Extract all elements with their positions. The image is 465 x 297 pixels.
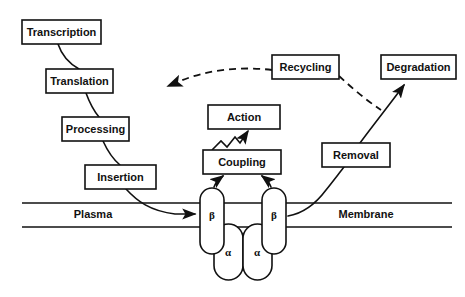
edge-coupling-to-action: [212, 131, 248, 150]
node-removal-label: Removal: [333, 149, 379, 161]
node-coupling-label: Coupling: [218, 156, 266, 168]
membrane-group: Plasma Membrane: [22, 203, 452, 227]
edge-transcription-to-translation: [58, 44, 79, 69]
node-recycling[interactable]: Recycling: [272, 55, 339, 79]
node-translation[interactable]: Translation: [46, 69, 113, 93]
edge-insertion-to-membrane: [126, 189, 195, 214]
node-insertion[interactable]: Insertion: [85, 165, 156, 189]
edge-recycling-to-insertion: [168, 69, 272, 87]
node-action-label: Action: [227, 111, 262, 123]
node-coupling[interactable]: Coupling: [203, 150, 281, 174]
edge-processing-to-insertion: [103, 141, 120, 165]
receptor-lifecycle-diagram: Plasma Membrane α α β β: [0, 0, 465, 297]
edge-removal-to-degradation: [360, 85, 404, 143]
node-transcription-label: Transcription: [27, 26, 97, 38]
edge-recycling-to-degradation-link: [339, 76, 381, 110]
node-degradation[interactable]: Degradation: [381, 55, 456, 79]
node-translation-label: Translation: [50, 75, 109, 87]
edge-membrane-to-removal: [288, 167, 344, 216]
beta-subunit-right-shape: [262, 188, 286, 254]
membrane-label: Membrane: [338, 208, 393, 220]
alpha-subunit-left-label: α: [225, 246, 232, 258]
plasma-label: Plasma: [74, 208, 113, 220]
node-action[interactable]: Action: [208, 105, 280, 129]
node-removal[interactable]: Removal: [322, 143, 390, 167]
alpha-subunit-right-label: α: [254, 246, 261, 258]
node-processing[interactable]: Processing: [62, 117, 129, 141]
receptor-complex: α α β β: [200, 188, 286, 280]
node-processing-label: Processing: [66, 123, 125, 135]
edge-beta-right-to-coupling: [262, 176, 271, 187]
node-degradation-label: Degradation: [386, 61, 450, 73]
node-recycling-label: Recycling: [280, 61, 332, 73]
node-insertion-label: Insertion: [97, 171, 144, 183]
node-transcription[interactable]: Transcription: [22, 20, 101, 44]
edge-beta-left-to-coupling: [214, 176, 223, 187]
beta-subunit-right-label: β: [271, 209, 277, 221]
edge-translation-to-processing: [86, 93, 99, 117]
beta-subunit-left-shape: [200, 188, 224, 254]
diagram-canvas: Plasma Membrane α α β β: [0, 0, 465, 297]
beta-subunit-left-label: β: [209, 209, 215, 221]
